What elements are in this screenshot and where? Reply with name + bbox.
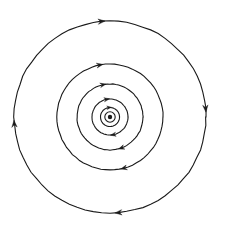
figure-canvas (0, 0, 225, 237)
center-dot (108, 115, 112, 119)
concentric-flow-diagram (0, 0, 225, 237)
